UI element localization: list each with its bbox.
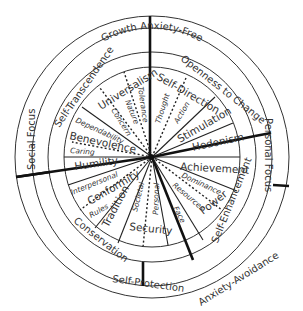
values-wheel-diagram: Growth Anxiety-Free Self-Protection Anxi… — [0, 0, 303, 311]
label-social-focus: Social Focus — [26, 109, 37, 170]
label-personal-focus: Personal Focus — [263, 118, 274, 192]
center-hub — [148, 154, 154, 160]
subtype-thought: Thought — [153, 91, 172, 124]
label-self-transcendence: Self-Transcendence — [52, 44, 116, 129]
label-growth-anxiety-free: Growth Anxiety-Free — [99, 20, 205, 44]
label-anxiety-avoidance: Anxiety-Avoidance — [196, 249, 280, 307]
subtype-societal: Societal — [130, 181, 146, 213]
subtype-personal: Personal — [151, 182, 161, 215]
subtype-caring: Caring — [70, 146, 95, 157]
value-security: Security — [129, 220, 173, 236]
label-self-protection: Self-Protection — [112, 273, 185, 294]
